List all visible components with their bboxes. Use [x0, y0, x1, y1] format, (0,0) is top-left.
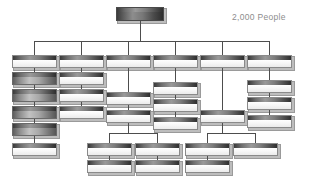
org-node-col4-child-1[interactable]	[153, 82, 198, 95]
node-body	[107, 115, 150, 122]
org-node-col1-head[interactable]	[12, 55, 57, 68]
org-node-col5a-child-2[interactable]	[185, 160, 230, 173]
org-node-col6-head[interactable]	[247, 55, 292, 68]
org-node-col1-child-4[interactable]	[12, 123, 57, 136]
org-chart-canvas: 2,000 People	[0, 0, 313, 185]
org-node-col6-child-1[interactable]	[247, 80, 292, 93]
connector-root-trunk	[140, 21, 141, 41]
org-node-col3a-child-1[interactable]	[87, 143, 132, 156]
node-body	[60, 111, 103, 118]
node-body	[107, 60, 150, 67]
connector-bus-to-col2	[81, 41, 82, 55]
node-body	[13, 148, 56, 155]
org-node-col2-child-1[interactable]	[59, 72, 104, 85]
org-node-col6-child-3[interactable]	[247, 115, 292, 128]
org-node-col3-child-1[interactable]	[106, 92, 151, 105]
node-body	[107, 97, 150, 104]
node-body	[154, 122, 197, 129]
node-body	[60, 77, 103, 84]
org-node-col1-child-3[interactable]	[12, 106, 57, 119]
node-body	[88, 165, 131, 172]
connector-col3a-drop	[109, 133, 110, 143]
connector-col3-1	[128, 68, 129, 92]
node-body	[13, 60, 56, 67]
org-node-col2-head[interactable]	[59, 55, 104, 68]
node-body	[154, 104, 197, 111]
node-body	[13, 77, 56, 84]
org-node-root[interactable]	[116, 7, 164, 21]
connector-col5-split-stem	[222, 123, 223, 133]
node-body	[117, 12, 163, 20]
connector-col5b-drop	[255, 133, 256, 143]
node-body	[13, 94, 56, 101]
org-node-col4-child-2[interactable]	[153, 99, 198, 112]
node-body	[88, 148, 131, 155]
connector-main-bus	[34, 41, 269, 42]
org-node-col3a-child-2[interactable]	[87, 160, 132, 173]
node-body	[248, 120, 291, 127]
org-node-col5a-child-1[interactable]	[185, 143, 230, 156]
connector-col3-split-bus	[109, 133, 157, 134]
org-node-col1-child-5[interactable]	[12, 143, 57, 156]
org-node-col4-head[interactable]	[153, 55, 198, 68]
people-count-label: 2,000 People	[232, 12, 286, 22]
connector-bus-to-col4	[175, 41, 176, 55]
node-body	[248, 85, 291, 92]
connector-bus-to-col6	[269, 41, 270, 55]
connector-col4-1	[175, 68, 176, 82]
org-node-col1-child-1[interactable]	[12, 72, 57, 85]
node-body	[154, 60, 197, 67]
org-node-col3b-child-2[interactable]	[135, 160, 180, 173]
connector-col3-split-stem	[128, 123, 129, 133]
connector-col3b-drop	[157, 133, 158, 143]
connector-col6-1	[269, 68, 270, 80]
node-body	[136, 165, 179, 172]
org-node-col3-head[interactable]	[106, 55, 151, 68]
node-body	[13, 128, 56, 135]
node-body	[136, 148, 179, 155]
org-node-col5b-child-1[interactable]	[233, 143, 278, 156]
org-node-col3b-child-1[interactable]	[135, 143, 180, 156]
org-node-col2-child-2[interactable]	[59, 89, 104, 102]
node-body	[60, 94, 103, 101]
node-body	[13, 111, 56, 118]
org-node-col1-child-2[interactable]	[12, 89, 57, 102]
connector-col5-1	[222, 68, 223, 110]
node-body	[60, 60, 103, 67]
node-body	[234, 148, 277, 155]
node-body	[154, 87, 197, 94]
org-node-col5-child-1[interactable]	[200, 110, 245, 123]
node-body	[201, 115, 244, 122]
node-body	[186, 165, 229, 172]
org-node-col3-child-2[interactable]	[106, 110, 151, 123]
connector-bus-to-col1	[34, 41, 35, 55]
org-node-col6-child-2[interactable]	[247, 97, 292, 110]
org-node-col4-child-3[interactable]	[153, 117, 198, 130]
node-body	[248, 60, 291, 67]
node-body	[248, 102, 291, 109]
org-node-col2-child-3[interactable]	[59, 106, 104, 119]
connector-col5-split-bus	[207, 133, 255, 134]
node-body	[186, 148, 229, 155]
connector-bus-to-col5	[222, 41, 223, 55]
node-body	[201, 60, 244, 67]
connector-col5a-drop	[207, 133, 208, 143]
org-node-col5-head[interactable]	[200, 55, 245, 68]
connector-bus-to-col3	[128, 41, 129, 55]
connector-col1-5	[34, 136, 35, 143]
